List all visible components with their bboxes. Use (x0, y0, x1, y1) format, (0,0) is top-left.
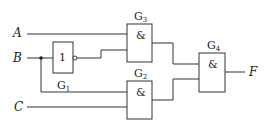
wire-g3-g4 (152, 43, 199, 64)
inversion-bubble (73, 56, 77, 60)
output-label-f: F (249, 66, 257, 78)
input-label-a: A (13, 27, 22, 39)
gate-g1-symbol: 1 (59, 52, 66, 63)
input-label-b: B (13, 52, 22, 64)
wire-g2-g4 (152, 79, 199, 100)
gate-g4-symbol: & (208, 59, 218, 70)
gate-g2-symbol: & (136, 87, 146, 98)
logic-circuit-diagram: A B C F 1 & & & G1 G2 G3 G4 (0, 0, 272, 130)
wire-b-branch (41, 58, 127, 92)
gate-g2-label: G2 (134, 68, 147, 81)
junction-dot (39, 56, 43, 60)
gate-g3-label: G3 (134, 11, 147, 24)
input-label-c: C (14, 101, 23, 113)
wire-g1-g3 (77, 50, 127, 58)
gate-g1-label: G1 (57, 80, 70, 93)
gate-g3-symbol: & (136, 30, 146, 41)
gate-g4-label: G4 (207, 40, 220, 53)
